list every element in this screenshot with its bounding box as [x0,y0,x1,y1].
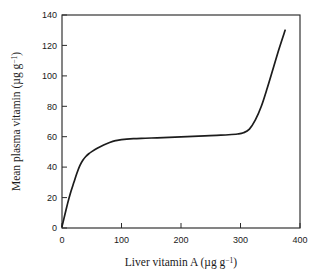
y-tick-label: 120 [42,41,57,51]
y-tick-label: 140 [42,10,57,20]
chart-figure: 0 20 40 60 80 100 120 140 0 100 200 300 … [0,0,317,277]
y-tick-label: 100 [42,71,57,81]
y-axis-title-main: Mean plasma vitamin (µg g [10,63,23,191]
y-tick-label: 40 [47,162,57,172]
y-tick-label: 80 [47,102,57,112]
x-axis-title-main: Liver vitamin A (µg g [125,256,226,269]
y-tick-label: 60 [47,132,57,142]
x-tick-label: 100 [114,235,129,245]
x-tick-label: 0 [59,235,64,245]
x-tick-label: 400 [292,235,307,245]
x-tick-label: 200 [173,235,188,245]
y-axis-title: Mean plasma vitamin (µg g−1) [10,52,24,191]
y-tick-label: 20 [47,193,57,203]
y-tick-label: 0 [52,223,57,233]
x-tick-label: 300 [233,235,248,245]
x-axis-title-tail: ) [233,256,237,269]
y-axis-title-superscript: −1 [10,56,19,64]
x-axis-title: Liver vitamin A (µg g−1) [125,256,238,270]
y-axis-title-tail: ) [10,52,23,56]
